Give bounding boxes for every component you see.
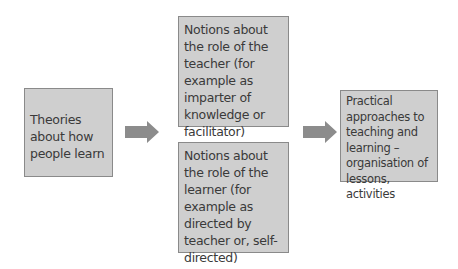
node-practical-text: Practical approaches to teaching and lea…	[346, 94, 428, 201]
node-theories: Theories about how people learn	[24, 88, 113, 177]
node-theories-text: Theories about how people learn	[30, 112, 104, 161]
node-learner-text: Notions about the role of the learner (f…	[184, 148, 277, 265]
node-practical: Practical approaches to teaching and lea…	[340, 90, 438, 182]
node-learner: Notions about the role of the learner (f…	[178, 142, 289, 253]
node-teacher-text: Notions about the role of the teacher (f…	[184, 22, 268, 139]
arrow-right-icon	[303, 121, 337, 143]
arrow-right-icon	[125, 121, 159, 143]
node-teacher: Notions about the role of the teacher (f…	[178, 16, 289, 127]
